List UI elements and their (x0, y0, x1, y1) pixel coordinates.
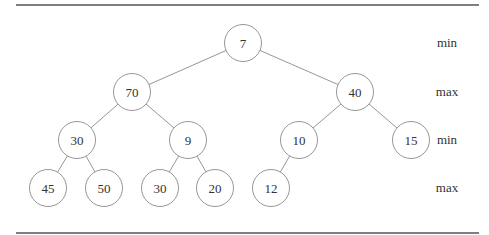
tree-edge (169, 156, 178, 172)
node-label: 30 (154, 181, 167, 196)
tree-nodes: 7704030910154550302012 (30, 25, 430, 207)
tree-node: 45 (30, 170, 67, 207)
tree-node: 30 (59, 122, 96, 159)
tree-node: 12 (253, 170, 290, 207)
level-label-max: max (436, 84, 459, 99)
tree-edge (369, 104, 397, 128)
node-label: 9 (185, 133, 192, 148)
tree-node: 70 (114, 74, 151, 111)
level-label-min: min (437, 132, 458, 147)
tree-node: 30 (142, 170, 179, 207)
node-label: 50 (98, 181, 111, 196)
tree-edge (197, 156, 206, 172)
tree-node: 7 (225, 25, 262, 62)
tree-node: 15 (393, 122, 430, 159)
level-labels: minmaxminmax (436, 35, 459, 195)
tree-node: 50 (86, 170, 123, 207)
tree-edge (91, 104, 118, 128)
tree-edge (146, 104, 174, 128)
node-label: 15 (405, 133, 418, 148)
tree-node: 9 (170, 122, 207, 159)
level-label-min: min (437, 35, 458, 50)
node-label: 30 (71, 133, 84, 148)
tree-edge (280, 156, 289, 172)
node-label: 7 (240, 36, 247, 51)
min-max-heap-diagram: 7704030910154550302012 minmaxminmax (0, 0, 489, 235)
node-label: 40 (349, 85, 362, 100)
tree-edge (58, 156, 68, 172)
tree-edge (313, 104, 341, 128)
node-label: 70 (126, 85, 139, 100)
tree-edge (86, 156, 95, 172)
tree-node: 10 (281, 122, 318, 159)
node-label: 45 (42, 181, 55, 196)
tree-edges (58, 50, 397, 172)
tree-node: 20 (197, 170, 234, 207)
node-label: 12 (265, 181, 278, 196)
tree-edge (149, 50, 226, 84)
tree-edge (260, 50, 338, 84)
node-label: 10 (293, 133, 306, 148)
level-label-max: max (436, 180, 459, 195)
node-label: 20 (209, 181, 222, 196)
tree-node: 40 (337, 74, 374, 111)
